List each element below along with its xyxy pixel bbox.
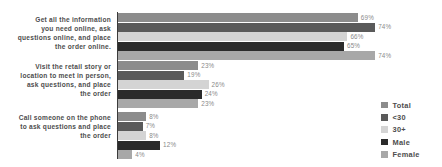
legend-swatch-icon: [381, 139, 388, 146]
bar-row: 74%: [118, 51, 442, 60]
bar-value-label: 8%: [146, 131, 159, 140]
bar-30: [118, 23, 375, 32]
bar-group-0: 69%74%66%65%74%: [118, 13, 442, 61]
bar-female: [118, 51, 375, 60]
legend-item-30[interactable]: <30: [381, 111, 442, 123]
legend-item-label: Male: [393, 138, 411, 147]
bar-value-label: 26%: [209, 80, 225, 89]
bar-female: [118, 150, 132, 159]
bar-row: 24%: [118, 90, 442, 99]
bar-row: 65%: [118, 42, 442, 51]
bar-value-label: 19%: [184, 70, 200, 79]
category-label-line: the order online.: [0, 42, 111, 51]
bar-male: [118, 141, 160, 150]
category-label-line: Get all the information: [0, 15, 111, 24]
bar-total: [118, 61, 198, 70]
category-label-2: Call someone on the phoneto ask question…: [0, 113, 111, 140]
category-label-line: to ask questions and place: [0, 122, 111, 131]
legend-item-label: 30+: [393, 125, 406, 134]
bar-value-label: 23%: [198, 61, 214, 70]
bar-row: 19%: [118, 71, 442, 80]
legend-swatch-icon: [381, 151, 388, 158]
bar-value-label: 74%: [375, 51, 391, 60]
bar-row: 74%: [118, 23, 442, 32]
legend-item-label: <30: [393, 113, 406, 122]
category-label-line: Visit the retail story or: [0, 62, 111, 71]
bar-male: [118, 90, 201, 99]
category-label-line: the order: [0, 89, 111, 98]
bar-value-label: 74%: [375, 22, 391, 31]
legend-item-label: Total: [393, 101, 412, 110]
bar-value-label: 24%: [202, 89, 218, 98]
bar-value-label: 4%: [132, 150, 145, 159]
category-label-line: you need online, ask: [0, 24, 111, 33]
legend-item-female[interactable]: Female: [381, 148, 442, 160]
category-label-0: Get all the informationyou need online, …: [0, 15, 111, 51]
bar-value-label: 66%: [347, 32, 363, 41]
bar-30: [118, 80, 208, 89]
category-label-line: ask questions, and place: [0, 80, 111, 89]
bar-row: 66%: [118, 32, 442, 41]
bar-chart: Get all the informationyou need online, …: [0, 0, 442, 167]
bar-row: 26%: [118, 80, 442, 89]
category-label-line: Call someone on the phone: [0, 113, 111, 122]
bar-row: 69%: [118, 13, 442, 22]
bar-30: [118, 131, 146, 140]
bar-value-label: 12%: [160, 140, 176, 149]
legend-item-label: Female: [393, 150, 420, 159]
category-label-line: questions online, and place: [0, 33, 111, 42]
chart-legend: Total<3030+MaleFemale: [381, 99, 442, 160]
category-label-1: Visit the retail story orlocation to mee…: [0, 62, 111, 98]
legend-item-30[interactable]: 30+: [381, 124, 442, 136]
category-label-line: location to meet in person,: [0, 71, 111, 80]
legend-swatch-icon: [381, 114, 388, 121]
bar-30: [118, 32, 347, 41]
legend-item-total[interactable]: Total: [381, 99, 442, 111]
bar-30: [118, 122, 142, 131]
bar-value-label: 8%: [146, 112, 159, 121]
legend-swatch-icon: [381, 126, 388, 133]
bar-female: [118, 99, 198, 108]
bar-value-label: 7%: [143, 121, 156, 130]
bar-total: [118, 13, 357, 22]
bar-total: [118, 112, 146, 121]
legend-swatch-icon: [381, 102, 388, 109]
category-label-line: the order: [0, 131, 111, 140]
bar-value-label: 65%: [344, 41, 360, 50]
bar-row: 23%: [118, 61, 442, 70]
bar-value-label: 23%: [198, 99, 214, 108]
category-axis-labels: Get all the informationyou need online, …: [0, 0, 115, 167]
bar-30: [118, 71, 184, 80]
bar-male: [118, 42, 344, 51]
legend-item-male[interactable]: Male: [381, 136, 442, 148]
bar-value-label: 69%: [358, 13, 374, 22]
